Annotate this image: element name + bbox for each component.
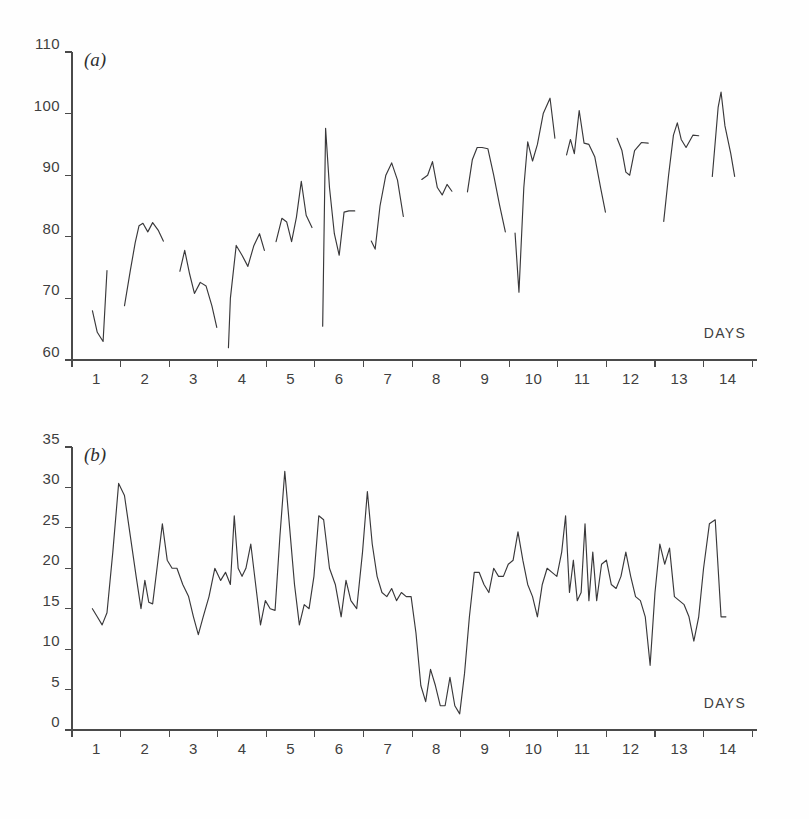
chart-panel-b: 051015202530351234567891011121314DAYS(b) [0, 410, 809, 819]
y-tick-label: 35 [43, 430, 61, 447]
x-tick-label: 9 [481, 740, 490, 757]
x-tick-label: 6 [335, 370, 344, 387]
data-trace-segment [323, 128, 355, 326]
y-tick-label: 70 [43, 281, 61, 298]
y-tick-label: 60 [43, 343, 61, 360]
data-trace-segment [422, 162, 452, 195]
data-trace-segment [617, 138, 648, 175]
y-tick-label: 110 [35, 35, 60, 52]
x-tick-label: 2 [140, 370, 149, 387]
y-tick-label: 0 [51, 713, 60, 730]
x-axis-title: DAYS [704, 325, 746, 341]
data-trace [92, 471, 726, 714]
figure-sheet: 607080901001101234567891011121314DAYS(a)… [0, 0, 809, 819]
chart-a-svg: 607080901001101234567891011121314DAYS(a) [0, 0, 809, 409]
y-tick-label: 5 [51, 673, 60, 690]
x-tick-label: 6 [335, 740, 344, 757]
x-tick-label: 9 [481, 370, 490, 387]
data-trace-segment [712, 92, 734, 176]
data-trace-segment [276, 181, 312, 241]
x-tick-label: 11 [574, 370, 590, 387]
data-trace-segment [664, 123, 699, 222]
y-tick-label: 15 [43, 592, 61, 609]
y-tick-label: 80 [43, 220, 61, 237]
data-trace-segment [371, 163, 403, 249]
x-tick-label: 13 [671, 370, 689, 387]
x-tick-label: 5 [286, 370, 295, 387]
panel-label: (a) [84, 49, 106, 71]
x-tick-label: 7 [383, 740, 392, 757]
x-tick-label: 8 [432, 740, 441, 757]
y-tick-label: 20 [43, 551, 61, 568]
panel-label: (b) [84, 444, 106, 466]
x-tick-label: 3 [189, 370, 198, 387]
x-tick-label: 8 [432, 370, 441, 387]
x-tick-label: 14 [719, 740, 737, 757]
data-trace-segment [180, 250, 217, 327]
y-tick-label: 10 [43, 632, 61, 649]
data-trace-segment [92, 271, 107, 342]
x-tick-label: 10 [525, 370, 543, 387]
x-tick-label: 11 [574, 740, 590, 757]
x-tick-label: 12 [622, 370, 640, 387]
y-tick-label: 100 [34, 97, 60, 114]
data-trace-segment [124, 223, 163, 306]
x-tick-label: 10 [525, 740, 543, 757]
x-tick-label: 7 [383, 370, 392, 387]
x-tick-label: 14 [719, 370, 737, 387]
x-tick-label: 2 [140, 740, 149, 757]
x-axis-title: DAYS [704, 695, 746, 711]
x-tick-label: 4 [238, 370, 247, 387]
y-tick-label: 30 [43, 470, 61, 487]
x-tick-label: 12 [622, 740, 640, 757]
x-tick-label: 1 [92, 370, 101, 387]
x-tick-label: 13 [671, 740, 689, 757]
chart-b-svg: 051015202530351234567891011121314DAYS(b) [0, 410, 809, 819]
y-tick-label: 90 [43, 158, 61, 175]
data-trace-segment [567, 111, 606, 213]
x-tick-label: 3 [189, 740, 198, 757]
x-tick-label: 4 [238, 740, 247, 757]
x-tick-label: 5 [286, 740, 295, 757]
data-trace-segment [515, 98, 555, 292]
data-trace-segment [228, 234, 264, 348]
data-trace-segment [467, 147, 505, 231]
chart-panel-a: 607080901001101234567891011121314DAYS(a) [0, 0, 809, 409]
y-tick-label: 25 [43, 511, 61, 528]
x-tick-label: 1 [92, 740, 101, 757]
